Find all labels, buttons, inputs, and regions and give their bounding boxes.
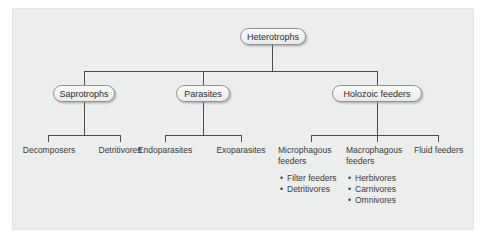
- connector-saprotrophs-bus: [48, 135, 120, 136]
- diagram-panel: Heterotrophs Saprotrophs Parasites Holoz…: [12, 8, 474, 230]
- node-parasites[interactable]: Parasites: [176, 85, 230, 102]
- sublist-item: Herbivores: [348, 173, 396, 184]
- connector-holozoic-stem: [377, 102, 378, 135]
- connector-drop-macrophagous: [377, 135, 378, 142]
- sublist-item: Filter feeders: [280, 173, 337, 184]
- connector-drop-decomposers: [48, 135, 49, 142]
- connector-drop-microphagous: [311, 135, 312, 142]
- connector-parasites-bus: [165, 135, 241, 136]
- connector-drop-detritivores: [120, 135, 121, 142]
- sublist-item: Detritivores: [280, 184, 337, 195]
- node-heterotrophs[interactable]: Heterotrophs: [240, 28, 306, 45]
- leaf-exoparasites: Exoparasites: [211, 145, 271, 156]
- sublist-item: Omnivores: [348, 195, 396, 206]
- connector-drop-exoparasites: [241, 135, 242, 142]
- diagram-canvas: Heterotrophs Saprotrophs Parasites Holoz…: [0, 0, 486, 244]
- node-saprotrophs[interactable]: Saprotrophs: [53, 85, 115, 102]
- connector-drop-endoparasites: [165, 135, 166, 142]
- sublist-macrophagous: Herbivores Carnivores Omnivores: [348, 173, 396, 206]
- connector-drop-parasites: [203, 71, 204, 85]
- connector-root-stem: [272, 45, 273, 71]
- connector-drop-fluid-feeders: [438, 135, 439, 142]
- leaf-decomposers: Decomposers: [18, 145, 80, 156]
- leaf-macrophagous-feeders: Macrophagous feeders: [346, 145, 412, 166]
- node-holozoic-feeders[interactable]: Holozoic feeders: [332, 85, 422, 102]
- leaf-fluid-feeders: Fluid feeders: [414, 145, 472, 156]
- sublist-microphagous: Filter feeders Detritivores: [280, 173, 337, 195]
- connector-saprotrophs-stem: [84, 102, 85, 135]
- connector-drop-holozoic: [377, 71, 378, 85]
- connector-parasites-stem: [203, 102, 204, 135]
- connector-holozoic-bus: [311, 135, 438, 136]
- connector-level2-bus: [84, 71, 377, 72]
- leaf-microphagous-feeders: Microphagous feeders: [278, 145, 344, 166]
- sublist-item: Carnivores: [348, 184, 396, 195]
- connector-drop-saprotrophs: [84, 71, 85, 85]
- leaf-endoparasites: Endoparasites: [133, 145, 197, 156]
